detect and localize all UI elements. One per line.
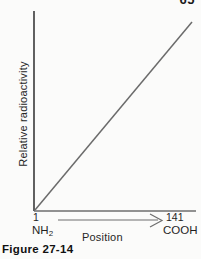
chart-figure: Relative radioactivity 1 141 NH2 COOH Po…: [0, 0, 201, 240]
n-terminus-label: NH2: [32, 224, 53, 238]
x-axis-title: Position: [82, 231, 123, 243]
chart-plot-area: [0, 0, 201, 240]
x-tick-label-start: 1: [33, 212, 39, 223]
n-terminus-text: NH: [32, 224, 49, 236]
c-terminus-label: COOH: [163, 224, 198, 236]
y-axis-title: Relative radioactivity: [17, 34, 29, 194]
n-terminus-subscript: 2: [49, 229, 53, 238]
data-series-line: [35, 22, 192, 210]
figure-page: 65 Relative radioactivity 1 141 NH2 COOH…: [0, 0, 201, 259]
figure-caption: Figure 27-14: [2, 243, 73, 255]
x-tick-label-end: 141: [166, 212, 184, 223]
